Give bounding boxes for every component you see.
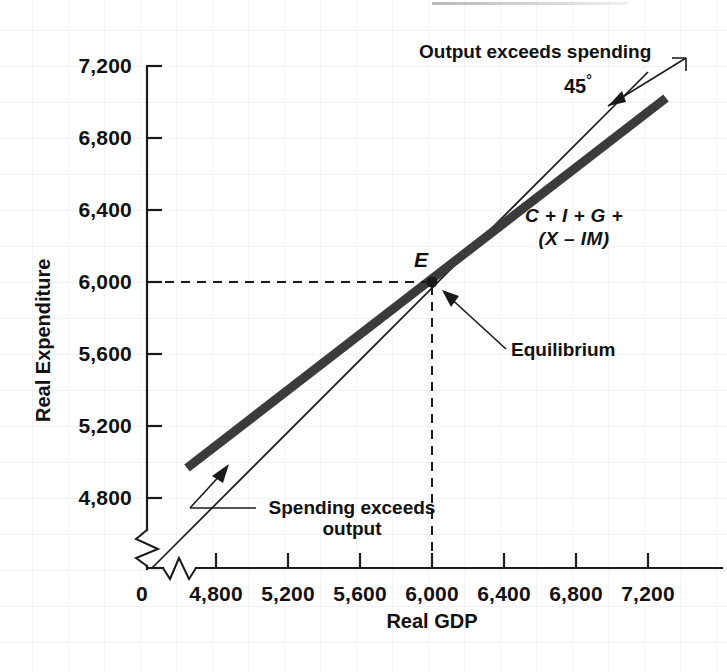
annotation-spending-exceeds-output-line2: output bbox=[262, 518, 442, 539]
forty-five-degree-value: 45 bbox=[564, 75, 586, 97]
y-tick-label-4800: 4,800 bbox=[36, 486, 132, 510]
x-tick-label-7200: 7,200 bbox=[596, 582, 700, 606]
expenditure-curve-label-line2: (X – IM) bbox=[504, 227, 644, 250]
y-tick-label-6400: 6,400 bbox=[36, 198, 132, 222]
output-exceeds-spending-arrowhead bbox=[608, 91, 626, 106]
annotation-spending-exceeds-output-line1: Spending exceeds bbox=[262, 497, 442, 518]
y-axis-title: Real Expenditure bbox=[32, 259, 55, 422]
x-axis-break-mark bbox=[163, 558, 196, 579]
equilibrium-leader bbox=[446, 294, 506, 349]
equilibrium-point-label: E bbox=[414, 248, 428, 272]
origin-label: 0 bbox=[122, 582, 162, 606]
x-axis-title: Real GDP bbox=[380, 610, 484, 633]
forty-five-degree-line bbox=[152, 72, 648, 568]
plot-canvas bbox=[0, 0, 727, 672]
degree-symbol: ° bbox=[586, 72, 592, 88]
keynesian-cross-figure: 7,200 6,800 6,400 6,000 5,600 5,200 4,80… bbox=[0, 0, 727, 672]
equilibrium-point-dot bbox=[427, 277, 438, 288]
y-tick-label-7200: 7,200 bbox=[36, 54, 132, 78]
annotation-equilibrium: Equilibrium bbox=[511, 339, 616, 360]
annotation-spending-exceeds-output: Spending exceeds output bbox=[262, 497, 442, 540]
forty-five-degree-label: 45° bbox=[564, 72, 592, 98]
expenditure-curve-label-line1: C + I + G + bbox=[504, 204, 644, 227]
y-axis-break-mark bbox=[136, 530, 158, 566]
expenditure-curve-label: C + I + G + (X – IM) bbox=[504, 204, 644, 250]
annotation-output-exceeds-spending: Output exceeds spending bbox=[419, 41, 651, 62]
y-tick-label-6800: 6,800 bbox=[36, 126, 132, 150]
